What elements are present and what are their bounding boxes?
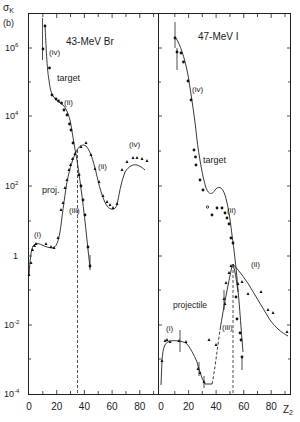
left-panel-title: 43-MeV Br	[66, 36, 114, 47]
svg-text:10-4: 10-4	[4, 388, 20, 399]
svg-text:60: 60	[107, 401, 119, 412]
plot-frame	[29, 14, 291, 395]
svg-text:0: 0	[158, 401, 164, 412]
svg-text:(i): (i)	[34, 230, 41, 239]
y-tick-labels: 106 104 102 1 10-2 10-4	[4, 42, 20, 399]
x-tick-labels: 0 20 40 60 80 0 20 40 60 80	[26, 401, 277, 412]
svg-text:projectile: projectile	[173, 300, 207, 310]
y-axis-title: σK	[3, 2, 14, 14]
svg-text:104: 104	[5, 110, 19, 121]
svg-text:80: 80	[134, 401, 146, 412]
svg-text:(iii): (iii)	[69, 206, 80, 215]
right-panel-labels: (iv) target (ii) (ii) projectile (iii) (…	[166, 85, 260, 333]
svg-text:(ii): (ii)	[64, 98, 73, 107]
svg-text:(ii): (ii)	[98, 162, 107, 171]
y-axis-unit: (b)	[3, 18, 14, 28]
svg-text:(iii): (iii)	[222, 323, 233, 332]
svg-text:target: target	[57, 73, 81, 83]
right-panel-title: 47-MeV I	[198, 31, 239, 42]
svg-text:(i): (i)	[166, 324, 173, 333]
svg-text:40: 40	[79, 401, 91, 412]
svg-text:10-2: 10-2	[4, 319, 20, 330]
svg-text:102: 102	[5, 180, 19, 191]
svg-text:proj.: proj.	[42, 185, 60, 195]
svg-text:(ii): (ii)	[251, 260, 260, 269]
svg-text:target: target	[203, 155, 227, 165]
left-projectile-curve	[29, 145, 145, 275]
x-ticks	[43, 14, 285, 395]
svg-text:(iv): (iv)	[192, 85, 203, 94]
chart-canvas: σK (b) 106 104 102 1 10-2 10-4 0 20 40 6…	[0, 0, 300, 422]
svg-text:80: 80	[266, 401, 278, 412]
svg-text:(iv): (iv)	[49, 48, 60, 57]
left-target-points	[42, 25, 92, 268]
svg-text:40: 40	[211, 401, 223, 412]
svg-text:0: 0	[26, 401, 32, 412]
svg-text:(ii): (ii)	[227, 206, 236, 215]
right-projectile-curve-dashed	[212, 330, 220, 384]
y-ticks	[29, 48, 291, 359]
svg-text:20: 20	[183, 401, 195, 412]
svg-text:1: 1	[13, 251, 18, 261]
left-projectile-points	[28, 141, 149, 276]
svg-text:20: 20	[51, 401, 63, 412]
svg-text:(iv): (iv)	[129, 140, 140, 149]
x-axis-title: Z2	[283, 404, 293, 416]
left-target-curve	[45, 25, 90, 268]
svg-text:60: 60	[238, 401, 250, 412]
svg-text:106: 106	[5, 42, 19, 53]
